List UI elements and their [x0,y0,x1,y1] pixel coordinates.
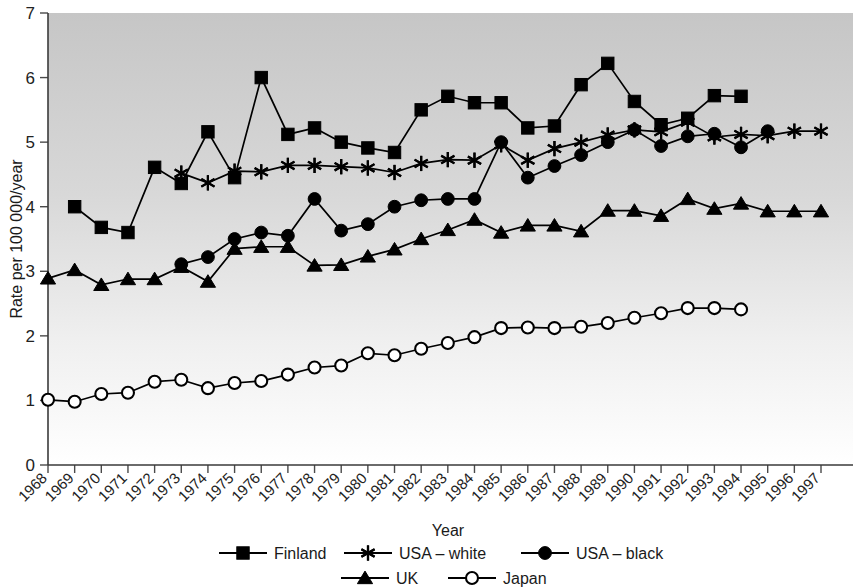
marker-square [335,136,347,148]
marker-circle [655,140,668,153]
marker-circle [761,125,774,138]
y-tick-label: 3 [26,262,35,281]
marker-open-circle [175,374,187,386]
marker-circle [601,136,614,149]
marker-open-circle [708,302,720,314]
marker-open-circle [442,337,454,349]
marker-square [735,90,747,102]
legend-label: Japan [503,570,547,587]
marker-open-circle [69,396,81,408]
marker-square [148,161,160,173]
marker-square [255,71,267,83]
marker-circle [681,130,694,143]
marker-square [95,221,107,233]
y-tick-label: 7 [26,4,35,23]
legend-label: USA – black [576,545,664,562]
marker-square [495,97,507,109]
line-chart: 01234567 1968196919701971197219731974197… [0,0,861,588]
y-tick-label: 2 [26,327,35,346]
marker-open-circle [42,394,54,406]
marker-open-circle [389,349,401,361]
marker-open-circle [95,388,107,400]
marker-square [602,57,614,69]
marker-open-circle [415,343,427,355]
x-axis-title: Year [432,522,465,539]
marker-open-circle [335,360,347,372]
marker-square [388,146,400,158]
marker-square [548,120,560,132]
marker-square [122,226,134,238]
marker-square [282,128,294,140]
y-axis-title: Rate per 100 000/year [8,159,25,319]
marker-open-circle [735,303,747,315]
legend-label: Finland [274,545,326,562]
marker-circle [548,160,561,173]
marker-square [468,97,480,109]
marker-open-circle [229,377,241,389]
marker-open-circle [495,322,507,334]
marker-open-circle [362,347,374,359]
marker-square [522,122,534,134]
marker-circle [388,200,401,213]
marker-circle [441,193,454,206]
marker-open-circle [122,387,134,399]
marker-open-circle [202,382,214,394]
y-tick-label: 0 [26,456,35,475]
marker-circle [202,251,215,264]
marker-open-circle [575,321,587,333]
marker-square [362,142,374,154]
marker-circle [335,224,348,237]
marker-open-circle [282,369,294,381]
marker-circle [468,193,481,206]
marker-open-circle [309,361,321,373]
chart-figure: 01234567 1968196919701971197219731974197… [0,0,861,588]
marker-open-circle [255,375,267,387]
marker-open-circle [655,307,667,319]
marker-square [415,104,427,116]
marker-square [442,90,454,102]
marker-circle [415,194,428,207]
marker-circle [628,123,641,136]
marker-circle [735,141,748,154]
marker-circle [255,226,268,239]
y-tick-label: 6 [26,69,35,88]
marker-open-circle [466,572,478,584]
legend-label: USA – white [399,545,486,562]
marker-open-circle [522,321,534,333]
marker-circle [521,171,534,184]
marker-circle [708,127,721,140]
marker-open-circle [548,322,560,334]
marker-square [708,89,720,101]
y-tick-label: 5 [26,133,35,152]
marker-open-circle [602,317,614,329]
marker-square [237,547,249,559]
y-tick-label: 1 [26,391,35,410]
marker-open-circle [682,302,694,314]
plot-area [48,13,853,465]
marker-open-circle [149,376,161,388]
marker-circle [539,547,552,560]
marker-circle [361,218,374,231]
marker-square [202,126,214,138]
marker-open-circle [628,312,640,324]
marker-square [575,78,587,90]
marker-square [308,122,320,134]
marker-circle [495,136,508,149]
marker-circle [575,149,588,162]
legend-label: UK [396,570,419,587]
y-tick-label: 4 [26,198,35,217]
marker-square [628,95,640,107]
marker-square [68,201,80,213]
marker-open-circle [468,331,480,343]
marker-circle [308,193,321,206]
